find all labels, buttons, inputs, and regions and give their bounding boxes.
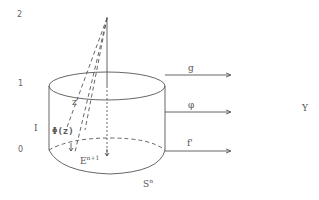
- label-f-prime: f': [187, 139, 193, 148]
- label-s-sup: n: [149, 177, 153, 184]
- cone-line-2: [75, 18, 107, 152]
- label-e-base: E: [80, 156, 87, 166]
- label-e-sup: n+1: [87, 154, 100, 161]
- axis-label-0: 0: [18, 146, 23, 154]
- label-phi: φ: [188, 101, 194, 110]
- axis-label-2: 2: [17, 11, 22, 19]
- label-s-n: Sn: [143, 178, 153, 189]
- arrow-down-phi: [69, 143, 73, 151]
- cone-line-1: [66, 18, 107, 130]
- label-y: Y: [302, 104, 308, 113]
- interval-label: I: [34, 124, 38, 133]
- axis-label-1: 1: [18, 80, 23, 88]
- arrow-down-e: [105, 149, 109, 156]
- cylinder-diagram: [0, 0, 319, 200]
- label-phi-z: Φ(z): [52, 127, 74, 136]
- label-g: g: [188, 64, 194, 73]
- label-e-n-plus-1: En+1: [80, 155, 99, 166]
- cone-line-3: [85, 18, 107, 130]
- label-z: z: [72, 98, 77, 107]
